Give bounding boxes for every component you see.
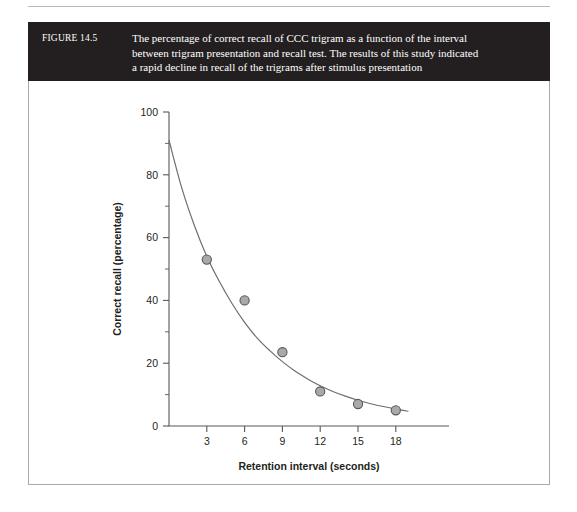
y-tick-label: 60 <box>146 231 158 243</box>
figure-caption-line-1: The percentage of correct recall of CCC … <box>132 31 536 46</box>
fit-curve-path <box>169 140 408 411</box>
page-top-rule <box>28 6 550 7</box>
data-point-markers <box>202 255 400 415</box>
figure-panel: 020406080100 369121518 Retention interva… <box>28 81 550 485</box>
figure-number-label: FIGURE 14.5 <box>42 31 132 46</box>
x-tick-label: 3 <box>204 435 210 447</box>
data-point-marker <box>202 255 211 264</box>
x-tick-label: 6 <box>242 435 248 447</box>
x-tick-label: 15 <box>352 435 364 447</box>
data-point-marker <box>316 387 325 396</box>
x-tick-label: 9 <box>279 435 285 447</box>
figure-caption-line-2: between trigram presentation and recall … <box>132 46 536 61</box>
y-axis-ticks: 020406080100 <box>140 106 169 432</box>
fit-curve <box>169 140 408 411</box>
figure-page: FIGURE 14.5 The percentage of correct re… <box>0 0 577 512</box>
data-point-marker <box>278 348 287 357</box>
data-point-marker <box>240 296 249 305</box>
figure-caption-line-3: a rapid decline in recall of the trigram… <box>132 60 536 75</box>
y-axis-title: Correct recall (percentage) <box>111 202 123 336</box>
y-tick-label: 0 <box>152 420 158 432</box>
x-axis-title: Retention interval (seconds) <box>238 460 379 472</box>
y-tick-label: 80 <box>146 169 158 181</box>
y-tick-label: 100 <box>140 106 158 118</box>
chart-axes <box>169 112 449 426</box>
data-point-marker <box>353 399 362 408</box>
figure-caption-band: FIGURE 14.5 The percentage of correct re… <box>28 22 550 81</box>
x-axis-ticks: 369121518 <box>204 426 402 447</box>
data-point-marker <box>391 406 400 415</box>
y-tick-label: 40 <box>146 294 158 306</box>
x-tick-label: 18 <box>390 435 402 447</box>
x-tick-label: 12 <box>314 435 326 447</box>
axis-lines <box>169 112 449 426</box>
figure-caption-text: The percentage of correct recall of CCC … <box>132 31 536 75</box>
recall-decay-chart: 020406080100 369121518 Retention interva… <box>29 81 551 485</box>
y-tick-label: 20 <box>146 357 158 369</box>
